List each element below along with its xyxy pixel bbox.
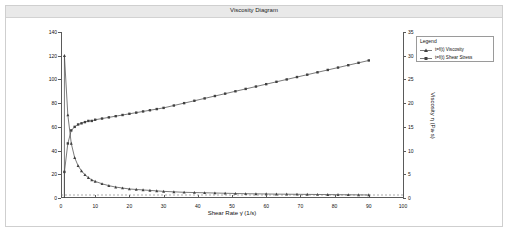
series-point [357,62,359,64]
series-point [286,78,288,80]
series-point [347,64,349,66]
series-point [90,178,93,181]
series-point [91,120,93,122]
series-point [234,90,236,92]
legend-marker-shear-stress [420,56,432,57]
legend-marker-viscosity [420,48,432,49]
series-point [80,122,82,124]
series-point [255,85,257,87]
series-point [94,119,96,121]
series-point [368,59,370,61]
series-point [316,71,318,73]
series-point [128,113,130,115]
series-point [87,120,89,122]
series-point [77,123,79,125]
series-point [337,66,339,68]
series-point [296,76,298,78]
series-point [108,116,110,118]
series-point [265,83,267,85]
series-point [135,111,137,113]
legend-label-viscosity: t=f(t) Viscosity [435,47,464,52]
series-point [121,114,123,116]
series-point [142,110,144,112]
series-point [101,117,103,119]
series-point [162,107,164,109]
series-point [70,129,72,131]
series-point [70,142,73,145]
legend-label-shear-stress: t=f(t) Shear Stress [435,55,472,60]
series-point [115,115,117,117]
legend-title: Legend [420,38,437,44]
series-point [214,95,216,97]
series-point [84,121,86,123]
series-point [149,109,151,111]
series-point [66,113,69,116]
series-point [67,142,69,144]
chart-window: Viscosity Diagram Shear Stress τ (Pa) Vi… [5,5,503,227]
series-point [173,104,175,106]
series-point [306,73,308,75]
series-point [156,108,158,110]
legend-box: Legend t=f(t) Viscosity t=f(t) Shear Str… [416,36,494,62]
series-point [224,92,226,94]
series-point [275,81,277,83]
series-point [183,102,185,104]
series-point [193,100,195,102]
series-point [244,88,246,90]
series-line [64,56,368,195]
series-point [327,69,329,71]
series-point [77,164,80,167]
series-point [203,97,205,99]
series-point [73,156,76,159]
series-point [73,126,75,128]
